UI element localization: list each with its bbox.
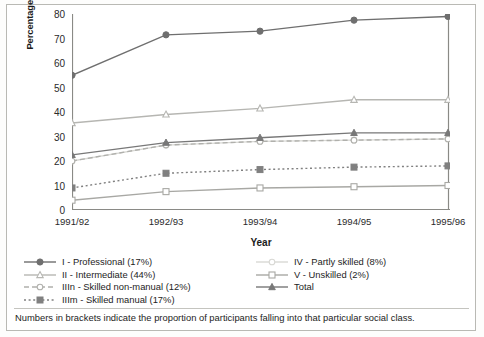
- data-point-marker: [351, 17, 357, 23]
- legend-label: Total: [294, 281, 314, 293]
- legend-item: I - Professional (17%): [24, 256, 191, 268]
- plot-area: Percentage of young people participating…: [72, 14, 450, 210]
- legend-column-left: I - Professional (17%)II - Intermediate …: [24, 256, 191, 306]
- legend-label: I - Professional (17%): [62, 256, 152, 268]
- data-point-marker: [72, 72, 75, 78]
- legend-label: V - Unskilled (2%): [294, 269, 369, 281]
- footnote-text: Numbers in brackets indicate the proport…: [15, 312, 467, 323]
- legend-label: II - Intermediate (44%): [62, 269, 155, 281]
- y-tick-label: 10: [39, 180, 65, 191]
- chart-legend: I - Professional (17%)II - Intermediate …: [24, 256, 464, 304]
- legend-marker-icon: [256, 256, 288, 268]
- data-point-marker: [445, 14, 450, 20]
- x-tick-label: 1991/92: [55, 216, 90, 227]
- legend-marker-icon: [24, 256, 56, 268]
- x-axis-label: Year: [72, 237, 450, 248]
- data-point-marker: [351, 164, 357, 170]
- legend-label: IIIm - Skilled manual (17%): [62, 294, 175, 306]
- data-point-marker: [37, 297, 43, 303]
- y-tick-label: 60: [39, 58, 65, 69]
- data-point-marker: [72, 158, 75, 164]
- data-point-marker: [445, 183, 450, 189]
- y-tick-label: 80: [39, 9, 65, 20]
- legend-marker-icon: [256, 269, 288, 281]
- y-tick-label: 30: [39, 131, 65, 142]
- legend-marker-icon: [24, 281, 56, 293]
- x-tick-label: 1995/96: [431, 216, 466, 227]
- data-point-marker: [257, 185, 263, 191]
- chart-figure: Percentage of young people participating…: [0, 0, 484, 337]
- data-point-marker: [163, 189, 169, 195]
- data-point-marker: [351, 184, 357, 190]
- x-tick-label: 1993/94: [243, 216, 278, 227]
- series-intermediate: [72, 96, 450, 125]
- series-line: [72, 16, 448, 75]
- data-point-marker: [163, 32, 169, 38]
- data-point-marker: [445, 136, 450, 142]
- legend-marker-icon: [24, 269, 56, 281]
- legend-item: IIIn - Skilled non-manual (12%): [24, 281, 191, 293]
- legend-marker-icon: [256, 281, 288, 293]
- data-point-marker: [351, 137, 357, 143]
- data-point-marker: [257, 28, 263, 34]
- footnote-divider: [14, 308, 469, 309]
- y-tick-label: 40: [39, 107, 65, 118]
- data-point-marker: [257, 167, 263, 173]
- data-point-marker: [445, 163, 450, 169]
- data-point-marker: [163, 170, 169, 176]
- data-point-marker: [37, 284, 43, 290]
- x-tick-label: 1992/93: [149, 216, 184, 227]
- series-unskilled: [72, 183, 450, 204]
- y-tick-label: 0: [39, 205, 65, 216]
- legend-label: IIIn - Skilled non-manual (12%): [62, 281, 191, 293]
- legend-label: IV - Partly skilled (8%): [294, 256, 386, 268]
- data-point-marker: [72, 185, 75, 191]
- data-point-marker: [37, 259, 43, 265]
- legend-item: Total: [256, 281, 386, 293]
- chart-plot: [72, 14, 450, 210]
- x-tick-label: 1994/95: [337, 216, 372, 227]
- data-point-marker: [269, 272, 275, 278]
- legend-item: II - Intermediate (44%): [24, 269, 191, 281]
- data-point-marker: [269, 259, 275, 265]
- legend-item: IIIm - Skilled manual (17%): [24, 294, 191, 306]
- y-tick-label: 50: [39, 82, 65, 93]
- legend-column-right: IV - Partly skilled (8%)V - Unskilled (2…: [256, 256, 386, 294]
- legend-item: IV - Partly skilled (8%): [256, 256, 386, 268]
- y-tick-label: 70: [39, 33, 65, 44]
- legend-item: V - Unskilled (2%): [256, 269, 386, 281]
- legend-marker-icon: [24, 294, 56, 306]
- data-point-marker: [72, 197, 75, 203]
- y-tick-label: 20: [39, 156, 65, 167]
- series-professional: [72, 14, 450, 78]
